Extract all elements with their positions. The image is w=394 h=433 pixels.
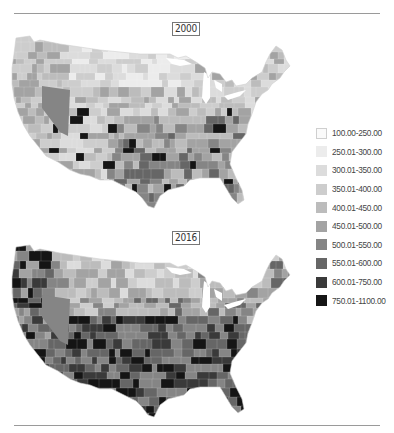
legend-swatch: [316, 239, 327, 250]
legend-label: 100.00-250.00: [332, 128, 382, 138]
legend-swatch: [316, 295, 327, 306]
legend-item: 500.01-550.00: [316, 236, 390, 255]
legend-swatch: [316, 221, 327, 232]
legend-item: 250.01-300.00: [316, 143, 390, 162]
legend-swatch: [316, 165, 327, 176]
legend-item: 100.00-250.00: [316, 124, 390, 143]
legend-swatch: [316, 277, 327, 288]
legend-label: 600.01-750.00: [332, 277, 382, 287]
legend-label: 450.01-500.00: [332, 221, 382, 231]
legend-label: 500.01-550.00: [332, 240, 382, 250]
legend-label: 300.01-350.00: [332, 165, 382, 175]
choropleth-map-2016: [0, 237, 305, 422]
legend-label: 400.01-450.00: [332, 203, 382, 213]
legend-label: 250.01-300.00: [332, 147, 382, 157]
legend-item: 300.01-350.00: [316, 161, 390, 180]
legend-label: 550.01-600.00: [332, 258, 382, 268]
legend-swatch: [316, 202, 327, 213]
legend-swatch: [316, 128, 327, 139]
legend-label: 350.01-400.00: [332, 184, 382, 194]
legend-item: 550.01-600.00: [316, 254, 390, 273]
choropleth-map-2000: [0, 28, 305, 213]
top-divider: [14, 13, 380, 14]
bottom-divider: [14, 425, 380, 426]
legend-swatch: [316, 258, 327, 269]
legend-item: 750.01-1100.00: [316, 291, 390, 310]
legend-item: 350.01-400.00: [316, 180, 390, 199]
legend-item: 450.01-500.00: [316, 217, 390, 236]
legend-swatch: [316, 184, 327, 195]
legend-swatch: [316, 146, 327, 157]
legend-label: 750.01-1100.00: [332, 296, 386, 306]
legend-item: 600.01-750.00: [316, 273, 390, 292]
legend-item: 400.01-450.00: [316, 198, 390, 217]
legend: 100.00-250.00 250.01-300.00 300.01-350.0…: [316, 124, 390, 310]
